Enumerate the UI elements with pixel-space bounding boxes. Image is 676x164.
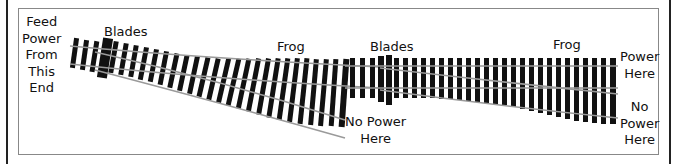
- turnout-1-ties: [70, 37, 349, 127]
- power-here-line-2: Here: [620, 66, 659, 83]
- no-power-2-line-1: No: [620, 99, 659, 116]
- feed-power-label: Feed Power From This End: [22, 14, 61, 97]
- feed-line-1: Feed: [22, 14, 61, 31]
- no-power-1-line-2: Here: [345, 131, 406, 148]
- no-power-1-line-1: No Power: [345, 114, 406, 131]
- feed-line-5: End: [22, 80, 61, 97]
- track-diagram: [0, 0, 676, 164]
- no-power-here-label-1: No Power Here: [345, 114, 406, 147]
- feed-line-4: This: [22, 64, 61, 81]
- blades-label-2: Blades: [370, 39, 414, 56]
- blades-label-1: Blades: [104, 24, 148, 41]
- frog-label-2: Frog: [553, 37, 581, 54]
- frog-label-1: Frog: [277, 39, 305, 56]
- feed-line-3: From: [22, 47, 61, 64]
- no-power-2-line-3: Here: [620, 132, 659, 149]
- feed-line-2: Power: [22, 31, 61, 48]
- power-here-line-1: Power: [620, 49, 659, 66]
- turnout-1: [70, 37, 380, 138]
- no-power-here-label-2: No Power Here: [620, 99, 659, 149]
- power-here-label: Power Here: [620, 49, 659, 82]
- no-power-2-line-2: Power: [620, 116, 659, 133]
